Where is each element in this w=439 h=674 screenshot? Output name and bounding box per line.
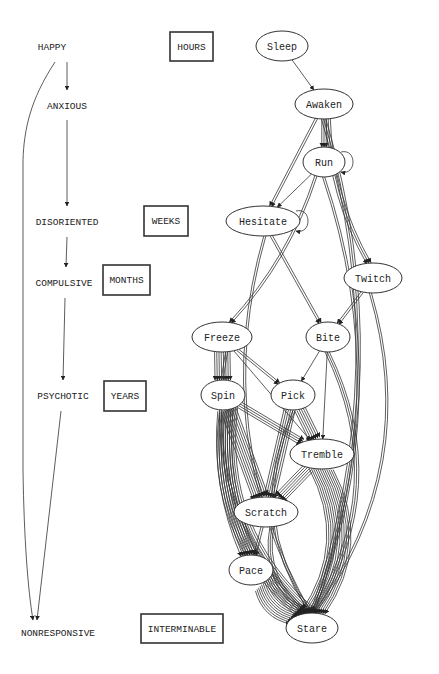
- stage-labels: HAPPYANXIOUSDISORIENTEDCOMPULSIVEPSYCHOT…: [21, 42, 99, 639]
- node-scratch: Scratch: [234, 497, 298, 527]
- stage-arrows: [23, 62, 67, 620]
- graph-nodes: SleepAwakenRunHesitateTwitchFreezeBiteSp…: [192, 31, 402, 643]
- edge-hesitate-bite: [270, 235, 321, 323]
- edge-sleep-awaken: [292, 60, 314, 90]
- diagram-canvas: SleepAwakenRunHesitateTwitchFreezeBiteSp…: [0, 0, 439, 674]
- node-label: Sleep: [267, 42, 297, 53]
- duration-label: INTERMINABLE: [148, 624, 217, 635]
- stage-label: ANXIOUS: [47, 101, 87, 112]
- stage-label: PSYCHOTIC: [37, 391, 89, 402]
- duration-box: WEEKS: [144, 206, 188, 236]
- node-stare: Stare: [286, 613, 338, 643]
- stage-label: HAPPY: [38, 42, 67, 53]
- duration-box: MONTHS: [103, 265, 150, 295]
- node-spin: Spin: [201, 380, 245, 410]
- node-pace: Pace: [229, 555, 273, 585]
- node-label: Awaken: [306, 100, 342, 111]
- node-bite: Bite: [306, 322, 350, 352]
- node-twitch: Twitch: [344, 263, 402, 293]
- stage-label: COMPULSIVE: [35, 278, 92, 289]
- duration-box: YEARS: [104, 381, 146, 411]
- node-label: Hesitate: [239, 217, 287, 228]
- duration-label: WEEKS: [152, 216, 181, 227]
- node-label: Stare: [297, 624, 327, 635]
- edge-bite-tremble: [323, 352, 327, 439]
- stage-label: DISORIENTED: [36, 217, 99, 228]
- node-run: Run: [303, 147, 345, 177]
- edge-tremble-scratch: [275, 464, 313, 502]
- edge-tremble-stare: [301, 468, 351, 613]
- stage-label: NONRESPONSIVE: [21, 628, 95, 639]
- edge-run-hesitate: [277, 174, 311, 207]
- node-label: Pace: [239, 566, 263, 577]
- node-label: Pick: [281, 391, 305, 402]
- duration-label: MONTHS: [109, 275, 144, 286]
- node-label: Spin: [211, 391, 235, 402]
- node-label: Scratch: [245, 508, 287, 519]
- node-label: Tremble: [301, 450, 343, 461]
- edge-bite-pick: [301, 351, 319, 381]
- node-awaken: Awaken: [295, 89, 353, 119]
- edge-run-freeze: [229, 175, 316, 323]
- node-label: Run: [315, 158, 333, 169]
- duration-box: HOURS: [170, 32, 213, 61]
- node-sleep: Sleep: [256, 31, 308, 61]
- duration-label: YEARS: [111, 391, 140, 402]
- duration-label: HOURS: [177, 42, 206, 53]
- duration-box: INTERMINABLE: [141, 614, 223, 643]
- node-label: Freeze: [204, 333, 240, 344]
- node-tremble: Tremble: [290, 439, 354, 469]
- edge-freeze-spin: [215, 352, 231, 380]
- node-freeze: Freeze: [192, 322, 252, 352]
- node-label: Bite: [316, 333, 340, 344]
- node-hesitate: Hesitate: [226, 206, 300, 236]
- node-label: Twitch: [355, 274, 391, 285]
- node-pick: Pick: [271, 380, 315, 410]
